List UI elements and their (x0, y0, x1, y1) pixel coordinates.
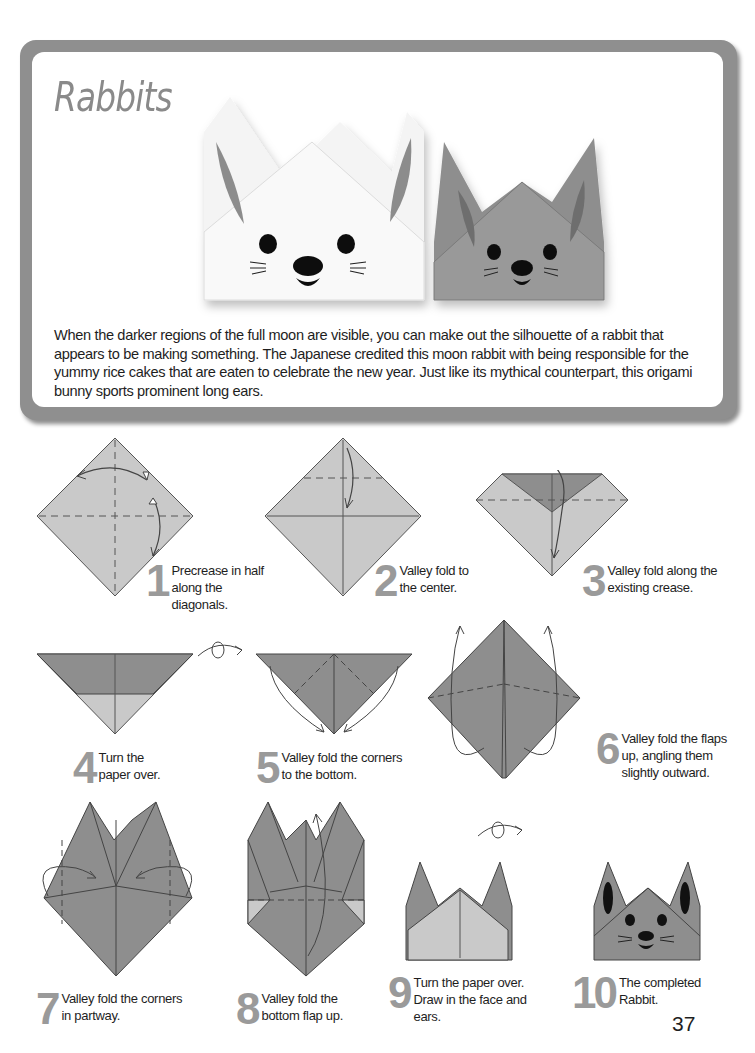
step-caption: The completed Rabbit. (619, 974, 719, 1008)
step-10-diagram (592, 860, 702, 964)
step-1: 1 Precrease in half along the diagonals. (146, 562, 281, 613)
step-4-diagram (35, 650, 195, 750)
step-number: 10 (572, 974, 615, 1012)
step-10: 10 The completed Rabbit. (572, 974, 719, 1012)
step-caption: Valley fold the bottom flap up. (261, 990, 351, 1024)
turn-over-icon (476, 820, 526, 844)
step-5: 5 Valley fold the corners to the bottom. (256, 749, 411, 787)
step-3: 3 Valley fold along the existing crease. (582, 562, 732, 600)
step-8: 8 Valley fold the bottom flap up. (236, 990, 351, 1028)
step-number: 8 (236, 990, 257, 1028)
turn-over-icon (196, 640, 246, 664)
step-caption: Turn the paper over. (98, 749, 168, 783)
intro-paragraph: When the darker regions of the full moon… (54, 326, 714, 400)
step-number: 7 (36, 990, 57, 1028)
page-number: 37 (672, 1012, 695, 1036)
step-caption: Valley fold along the existing crease. (607, 562, 732, 596)
step-2: 2 Valley fold to the center. (374, 562, 479, 600)
white-rabbit-model (204, 97, 424, 300)
step-7-diagram (36, 800, 196, 980)
step-7: 7 Valley fold the corners in partway. (36, 990, 191, 1028)
gray-rabbit-model (434, 138, 604, 300)
step-number: 2 (374, 562, 395, 600)
intro-panel: Rabbits (32, 52, 723, 407)
intro-frame: Rabbits (20, 40, 737, 420)
step-caption: Turn the paper over. Draw in the face an… (413, 974, 533, 1025)
step-caption: Valley fold the corners to the bottom. (281, 749, 411, 783)
step-9-diagram (404, 860, 514, 964)
step-6-diagram (424, 618, 584, 783)
step-caption: Valley fold the corners in partway. (61, 990, 191, 1024)
step-caption: Valley fold to the center. (399, 562, 479, 596)
rabbits-photo (192, 72, 622, 322)
step-number: 5 (256, 749, 277, 787)
step-caption: Valley fold the flaps up, angling them s… (621, 730, 731, 781)
step-number: 3 (582, 562, 603, 600)
step-9: 9 Turn the paper over. Draw in the face … (388, 974, 533, 1025)
page-title: Rabbits (54, 74, 172, 120)
step-number: 4 (73, 749, 94, 787)
step-5-diagram (254, 650, 414, 750)
step-number: 6 (596, 730, 617, 768)
step-number: 1 (146, 562, 167, 600)
step-6: 6 Valley fold the flaps up, angling them… (596, 730, 731, 781)
step-4: 4 Turn the paper over. (73, 749, 168, 787)
step-8-diagram (246, 800, 366, 980)
step-number: 9 (388, 974, 409, 1012)
